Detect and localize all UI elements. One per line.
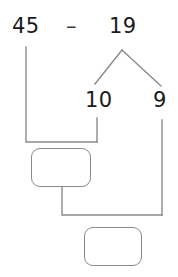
worksheet-canvas: 45 – 19 10 9 bbox=[0, 0, 178, 277]
branch-left-to-10 bbox=[95, 50, 122, 84]
wire-45-to-first-box bbox=[26, 47, 97, 142]
first-step-answer-box[interactable] bbox=[31, 148, 91, 187]
wire-first-box-to-final bbox=[62, 187, 162, 215]
branch-right-to-9 bbox=[122, 50, 161, 86]
final-answer-box[interactable] bbox=[84, 227, 142, 266]
